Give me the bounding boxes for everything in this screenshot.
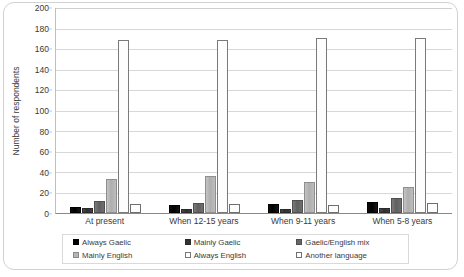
y-axis-tick-label: 100 [35,107,49,116]
y-axis-tick-label: 60 [40,148,49,157]
y-axis-tick-mark [49,8,52,9]
bar[interactable] [415,38,426,213]
bar[interactable] [280,209,291,213]
bar[interactable] [169,205,180,213]
bar-group [353,8,452,213]
bar[interactable] [94,201,105,213]
chart-screenshot: Number of respondents 020406080100120140… [0,0,464,277]
y-axis-tick-mark [49,131,52,132]
legend-item-label: Always Gaelic [82,239,131,247]
y-axis-title: Number of respondents [8,0,24,222]
bar[interactable] [205,176,216,213]
legend-swatch-icon [185,239,191,245]
bar[interactable] [367,202,378,213]
bar[interactable] [193,203,204,213]
y-axis-tick-label: 200 [35,4,49,13]
y-axis-title-text: Number of respondents [11,67,21,156]
legend-item[interactable]: Another language [296,252,408,260]
legend-item-label: Mainly Gaelic [194,239,241,247]
bar[interactable] [181,209,192,213]
bar[interactable] [391,198,402,213]
y-axis-tick-mark [49,90,52,91]
bar-group [56,8,155,213]
y-axis-tick-label: 20 [40,189,49,198]
y-axis-tick-mark [49,111,52,112]
bar-groups [56,8,452,213]
x-axis-category-label: When 5-8 years [353,216,452,230]
y-axis-tick-label: 40 [40,169,49,178]
y-axis-tick-mark [49,193,52,194]
bar[interactable] [268,204,279,213]
y-axis-tick-label: 180 [35,24,49,33]
y-axis-tick-mark [49,69,52,70]
legend-swatch-icon [73,239,79,245]
bar[interactable] [379,208,390,213]
y-axis-tick-mark [49,49,52,50]
legend-item[interactable]: Gaelic/English mix [296,239,408,247]
bar[interactable] [304,182,315,213]
legend-swatch-icon [73,252,79,258]
bar[interactable] [106,179,117,213]
legend-item[interactable]: Mainly Gaelic [185,239,297,247]
plot-canvas [55,8,452,214]
bar[interactable] [217,40,228,213]
bar[interactable] [82,208,93,213]
y-axis-tick-label: 160 [35,45,49,54]
x-axis-category-label: When 12-15 years [154,216,253,230]
y-axis-tick-mark [49,152,52,153]
y-axis-tick-mark [49,172,52,173]
legend-item[interactable]: Always Gaelic [73,239,185,247]
x-axis-category-labels: At presentWhen 12-15 yearsWhen 9-11 year… [55,216,452,230]
legend-item-label: Gaelic/English mix [305,239,369,247]
bar-group [254,8,353,213]
x-axis-category-label: At present [55,216,154,230]
bar[interactable] [328,205,339,213]
legend-item-label: Another language [305,252,367,260]
legend-swatch-icon [296,252,302,258]
y-axis-tick-label: 140 [35,66,49,75]
legend-item-label: Mainly English [82,252,132,260]
plot-area: 020406080100120140160180200 [28,8,452,214]
x-axis-category-label: When 9-11 years [254,216,353,230]
y-axis-tick-mark [49,214,52,215]
legend-item[interactable]: Mainly English [73,252,185,260]
legend-item-label: Always English [194,252,246,260]
legend-swatch-icon [185,252,191,258]
bar[interactable] [130,204,141,213]
bar[interactable] [292,200,303,213]
chart-legend: Always GaelicMainly GaelicGaelic/English… [62,234,409,264]
y-axis-tick-label: 80 [40,127,49,136]
legend-item[interactable]: Always English [185,252,297,260]
bar[interactable] [229,204,240,213]
bar[interactable] [427,203,438,213]
bar[interactable] [316,38,327,213]
y-axis-tick-mark [49,28,52,29]
bar[interactable] [403,187,414,213]
y-axis-tick-labels: 020406080100120140160180200 [28,8,52,214]
bar[interactable] [118,40,129,213]
bar-group [155,8,254,213]
y-axis-tick-label: 120 [35,86,49,95]
legend-swatch-icon [296,239,302,245]
bar[interactable] [70,207,81,213]
